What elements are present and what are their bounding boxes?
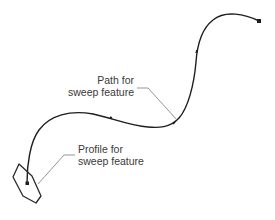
- profile-label-line2: sweep feature: [78, 155, 144, 167]
- path-tick-mark: [196, 50, 197, 53]
- profile-leader-line: [38, 155, 75, 184]
- profile-label-line1: Profile for: [78, 143, 123, 155]
- path-end-square-icon: [257, 19, 261, 23]
- profile-center-square-icon: [26, 182, 30, 186]
- path-leader-line: [137, 88, 177, 120]
- sweep-feature-diagram: Path for sweep feature Profile for sweep…: [0, 0, 275, 220]
- path-tick-mark: [110, 117, 112, 118]
- path-label-line1: Path for: [97, 74, 134, 86]
- path-label-line2: sweep feature: [68, 86, 134, 98]
